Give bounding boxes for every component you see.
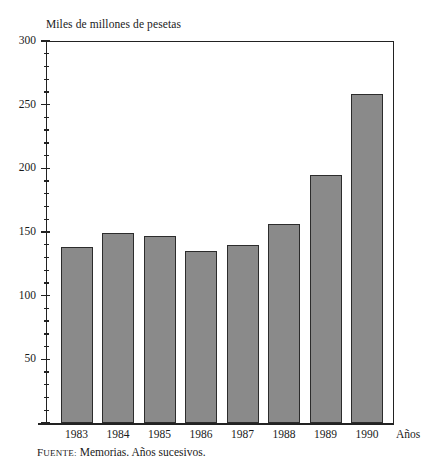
y-tick-minor [44, 333, 49, 334]
y-tick-minor [44, 257, 49, 258]
y-tick-minor [44, 320, 49, 321]
y-axis-tick-label: 200 [0, 162, 36, 174]
y-tick-major [41, 295, 50, 296]
y-tick-minor [44, 282, 49, 283]
y-axis-tick-label: 50 [0, 353, 36, 365]
y-tick-major [41, 231, 50, 232]
chart-axis-title: Miles de millones de pesetas [46, 18, 181, 30]
bar [61, 247, 93, 423]
y-axis-tick-label: 100 [0, 290, 36, 302]
y-axis-tick-label: 150 [0, 226, 36, 238]
y-tick-major [41, 40, 50, 41]
y-tick-minor [44, 155, 49, 156]
y-tick-minor [44, 129, 49, 130]
plot-area [46, 41, 394, 424]
y-tick-minor [44, 371, 49, 372]
y-axis-tick-label: 300 [0, 35, 36, 47]
y-tick-minor [44, 193, 49, 194]
y-tick-minor [44, 308, 49, 309]
source-text: Memorias. Años sucesivos. [80, 446, 206, 458]
y-tick-minor [44, 219, 49, 220]
y-tick-minor [44, 91, 49, 92]
y-tick-minor [44, 346, 49, 347]
bar [144, 236, 176, 423]
y-tick-minor [44, 142, 49, 143]
y-tick-minor [44, 270, 49, 271]
bar-chart-figure: Miles de millones de pesetas 50100150200… [0, 0, 430, 468]
source-note: FUENTE: Memorias. Años sucesivos. [37, 446, 206, 458]
bar [102, 233, 134, 423]
y-tick-major [41, 359, 50, 360]
bar [310, 175, 342, 423]
y-tick-minor [44, 180, 49, 181]
source-prefix-rest: UENTE: [43, 448, 77, 458]
y-tick-minor [44, 66, 49, 67]
bar [227, 245, 259, 423]
y-tick-major [41, 168, 50, 169]
y-tick-minor [44, 53, 49, 54]
y-tick-minor [44, 206, 49, 207]
bar [268, 224, 300, 423]
bar [351, 94, 383, 423]
y-tick-minor [44, 410, 49, 411]
bar [185, 251, 217, 423]
y-tick-minor [44, 384, 49, 385]
x-axis-line [38, 423, 394, 425]
y-tick-minor [44, 117, 49, 118]
y-tick-major [41, 104, 50, 105]
y-tick-major [41, 422, 50, 423]
x-axis-tick-label: 1990 [342, 429, 392, 441]
y-axis-tick-label: 250 [0, 99, 36, 111]
y-tick-minor [44, 79, 49, 80]
x-axis-title: Años [396, 429, 420, 441]
y-tick-minor [44, 244, 49, 245]
y-tick-minor [44, 397, 49, 398]
